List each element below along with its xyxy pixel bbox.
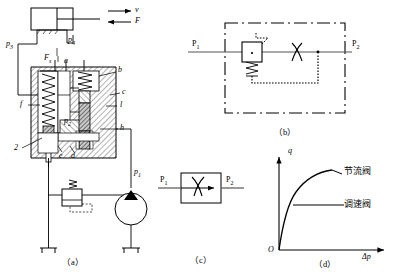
caption-c: （c） bbox=[190, 256, 212, 265]
legend-throttle-valve: 节流阀 bbox=[344, 166, 371, 176]
chart-origin-label: O bbox=[268, 246, 274, 254]
label-d: d bbox=[71, 152, 75, 160]
label-l: l bbox=[120, 101, 122, 109]
chart-ylabel: q bbox=[288, 147, 292, 155]
label-f: f bbox=[20, 100, 22, 108]
label-b-port-out: P2 bbox=[352, 40, 359, 51]
label-a: a bbox=[64, 57, 68, 65]
label-b: b bbox=[118, 66, 122, 74]
caption-a: （a） bbox=[62, 258, 84, 267]
label-Fs: Fs bbox=[44, 54, 51, 65]
label-c: c bbox=[122, 88, 126, 96]
label-2: 2 bbox=[14, 144, 18, 152]
label-h: h bbox=[120, 124, 124, 132]
caption-b: （b） bbox=[274, 128, 296, 137]
label-force: F bbox=[135, 17, 140, 25]
label-p4: p4 bbox=[68, 36, 75, 47]
panel-b-circuit bbox=[188, 23, 352, 113]
legend-speed-control-valve: 调速阀 bbox=[344, 199, 371, 209]
label-p3: p3 bbox=[6, 40, 13, 51]
label-p2: p2 bbox=[64, 117, 71, 128]
caption-d: （d） bbox=[314, 260, 336, 269]
chart-xlabel: Δp bbox=[362, 253, 371, 261]
label-velocity: v bbox=[135, 6, 139, 14]
label-e: e bbox=[59, 152, 63, 160]
label-c-port-out: P2 bbox=[226, 176, 233, 187]
label-p1: p1 bbox=[134, 168, 141, 179]
series-throttle-curve bbox=[279, 170, 332, 250]
label-b-port-in: P1 bbox=[192, 40, 199, 51]
label-c-port-in: P1 bbox=[160, 176, 167, 187]
